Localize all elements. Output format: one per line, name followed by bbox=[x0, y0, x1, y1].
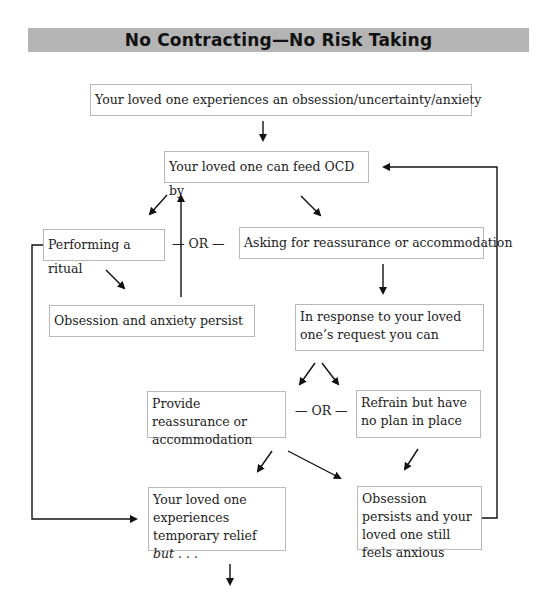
box-relief-italic-text: but bbox=[153, 546, 174, 561]
box-start-text: Your loved one experiences an obsession/… bbox=[95, 92, 481, 107]
box-refrain-no-plan: Refrain but have no plan in place bbox=[356, 390, 481, 438]
box-still-anxious: Obsession persists and your loved one st… bbox=[357, 486, 482, 550]
box-in-response-text: In response to your loved one’s request … bbox=[300, 309, 461, 342]
box-temporary-relief: Your loved one experiences temporary rel… bbox=[148, 487, 286, 551]
box-relief-ellipsis: . . . bbox=[174, 546, 198, 561]
box-refrain-text: Refrain but have no plan in place bbox=[361, 395, 467, 428]
box-feed-ocd-text: Your loved one can feed OCD by bbox=[169, 159, 354, 198]
arrow-ritual-to-persist bbox=[106, 270, 124, 288]
box-relief-text: Your loved one experiences temporary rel… bbox=[153, 492, 257, 543]
arrow-ritual-loop-to-relief bbox=[32, 245, 136, 519]
arrow-provide-to-relief bbox=[258, 451, 272, 471]
or-connector-1: — OR — bbox=[172, 236, 225, 251]
diagram-title: No Contracting—No Risk Taking bbox=[125, 30, 433, 50]
box-ritual-text: Performing a ritual bbox=[48, 237, 131, 276]
box-performing-ritual: Performing a ritual bbox=[43, 229, 165, 261]
box-start-obsession: Your loved one experiences an obsession/… bbox=[90, 84, 472, 116]
title-banner: No Contracting—No Risk Taking bbox=[28, 28, 529, 52]
arrow-feed-to-asking bbox=[301, 196, 320, 215]
arrow-feed-to-ritual bbox=[150, 195, 167, 214]
box-in-response: In response to your loved one’s request … bbox=[295, 304, 484, 351]
box-obsession-anxiety-persist: Obsession and anxiety persist bbox=[49, 305, 255, 337]
box-provide-reassurance: Provide reassurance or accommodation bbox=[147, 391, 286, 438]
arrow-refrain-to-anxious bbox=[405, 449, 418, 469]
arrow-provide-to-anxious bbox=[288, 451, 340, 478]
arrow-response-to-provide bbox=[300, 363, 315, 384]
box-still-anxious-text: Obsession persists and your loved one st… bbox=[362, 491, 472, 560]
box-asking-text: Asking for reassurance or accommodation bbox=[244, 235, 512, 250]
box-obsession-persist-text: Obsession and anxiety persist bbox=[54, 313, 243, 328]
box-feed-ocd: Your loved one can feed OCD by bbox=[164, 151, 369, 183]
or-connector-2: — OR — bbox=[295, 403, 348, 418]
box-provide-text: Provide reassurance or accommodation bbox=[152, 396, 252, 447]
arrow-response-to-refrain bbox=[322, 363, 338, 384]
box-asking-reassurance: Asking for reassurance or accommodation bbox=[239, 227, 484, 259]
